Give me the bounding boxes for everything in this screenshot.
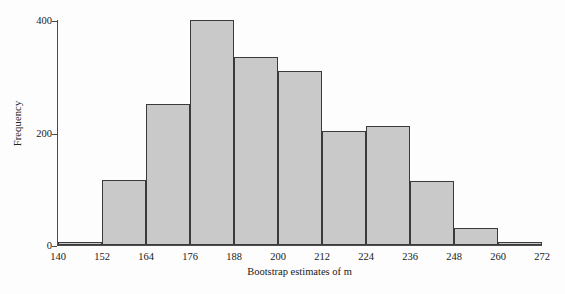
bars-group [58, 20, 542, 245]
x-axis-tick-label: 248 [434, 251, 474, 262]
histogram-bar [410, 181, 454, 245]
histogram-bar [234, 57, 278, 245]
x-axis-tick-label: 152 [82, 251, 122, 262]
histogram-bar [278, 71, 322, 245]
y-axis-tick-label: 400 [26, 16, 52, 27]
histogram-bar [102, 180, 146, 245]
histogram-bar [498, 242, 542, 245]
x-axis-title: Bootstrap estimates of m [57, 266, 542, 277]
histogram-bar [190, 20, 234, 245]
histogram-bar [58, 242, 102, 245]
x-axis-tick-label: 176 [170, 251, 210, 262]
y-axis-tick-mark [52, 21, 57, 22]
x-axis-tick-label: 260 [478, 251, 518, 262]
y-axis-tick-label: 200 [26, 129, 52, 140]
y-axis-tick-labels: 0200400 [22, 0, 52, 294]
histogram-bar [454, 228, 498, 245]
x-axis-tick-label: 272 [522, 251, 562, 262]
histogram-bar [366, 126, 410, 245]
x-axis-tick-label: 164 [126, 251, 166, 262]
x-axis-tick-labels: 140152164176188200212224236248260272 [57, 246, 542, 268]
x-axis-tick-label: 212 [302, 251, 342, 262]
y-axis-tick-mark [52, 134, 57, 135]
x-axis-tick-label: 236 [390, 251, 430, 262]
histogram-figure: Frequency 0200400 1401521641761882002122… [0, 0, 565, 294]
x-axis-tick-label: 188 [214, 251, 254, 262]
y-axis-tick-label: 0 [26, 241, 52, 252]
x-axis-title-text: Bootstrap estimates of m [247, 266, 352, 277]
x-axis-tick-label: 140 [38, 251, 78, 262]
plot-area [57, 20, 542, 246]
x-axis-tick-label: 224 [346, 251, 386, 262]
x-axis-tick-label: 200 [258, 251, 298, 262]
histogram-bar [322, 131, 366, 245]
histogram-bar [146, 104, 190, 245]
